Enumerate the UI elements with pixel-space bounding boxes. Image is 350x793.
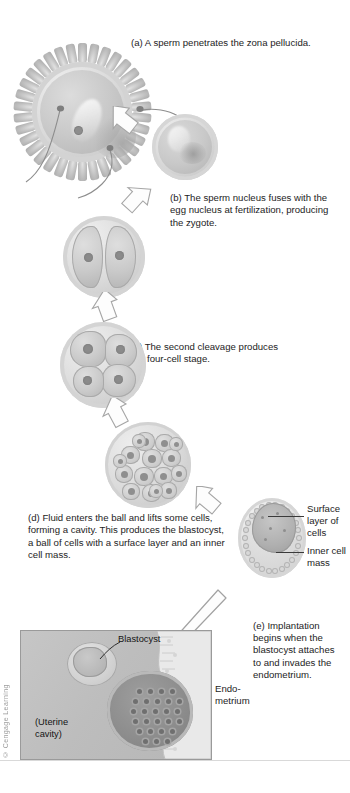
embryonic-cell xyxy=(144,719,149,724)
label-uterine-cavity-line2: cavity) xyxy=(35,729,68,741)
label-uterine-cavity-line1: (Uterine xyxy=(35,717,68,729)
morula xyxy=(105,422,191,508)
inner-cell-mass-leader-line xyxy=(276,552,304,553)
embryonic-cell xyxy=(148,729,153,734)
four-cell-zona-pellucida xyxy=(60,322,146,408)
copyright-credit: © Cengage Learning xyxy=(2,648,14,758)
implanting-blastocyst xyxy=(107,671,193,751)
embryonic-cell xyxy=(137,729,142,734)
trophoblast-cell xyxy=(243,543,249,549)
inner-cell-mass-body xyxy=(252,503,296,553)
morula-nucleus xyxy=(168,455,175,462)
embryonic-cell xyxy=(170,689,175,694)
blastocyst xyxy=(238,498,306,578)
morula-blastomere xyxy=(169,437,183,451)
blastomere xyxy=(73,366,104,397)
morula-blastomere xyxy=(171,465,187,482)
embryonic-cell xyxy=(142,709,147,714)
embryonic-cell xyxy=(155,719,160,724)
morula-nucleus xyxy=(176,471,182,477)
caption-b: (b) The sperm nucleus fuses with the egg… xyxy=(170,192,342,229)
label-endometrium: Endo- metrium xyxy=(215,683,265,707)
embryonic-cell xyxy=(159,689,164,694)
embryonic-cell xyxy=(133,699,138,704)
trophoblast-cell xyxy=(272,568,278,574)
morula-nucleus xyxy=(140,473,148,481)
blastomere xyxy=(70,331,106,367)
icm-nucleus xyxy=(269,527,272,530)
morula-nucleus xyxy=(118,459,123,464)
label-uterine-cavity: (Uterine cavity) xyxy=(35,717,68,740)
blastomere-nucleus xyxy=(84,253,93,262)
implanting-blastocyst-body xyxy=(107,671,193,751)
morula-nucleus xyxy=(161,440,168,447)
surface-layer-leader-line xyxy=(268,516,304,517)
morula-nucleus xyxy=(160,473,167,480)
blastocyst-leader-line xyxy=(96,640,122,662)
morula-blastomere xyxy=(132,434,146,448)
morula-blastomere xyxy=(113,454,127,468)
label-endometrium-line1: Endo- xyxy=(215,683,265,695)
embryonic-cell xyxy=(143,739,148,744)
morula-nucleus xyxy=(154,489,159,494)
label-blastocyst: Blastocyst xyxy=(118,634,160,644)
embryonic-cell xyxy=(166,699,171,704)
trophoblast-cell xyxy=(266,568,272,574)
embryonic-cell xyxy=(159,729,164,734)
morula-nucleus xyxy=(137,439,142,444)
icm-nucleus xyxy=(283,529,286,532)
label-surface-layer: Surface layer of cells xyxy=(307,503,350,538)
embryonic-cell xyxy=(166,719,171,724)
blastomere-nucleus xyxy=(115,251,124,260)
embryonic-cell xyxy=(177,699,182,704)
caption-e: (e) Implantation begins when the blastoc… xyxy=(253,620,345,681)
icm-nucleus xyxy=(264,538,267,541)
embryonic-cell xyxy=(153,709,158,714)
embryonic-cell xyxy=(175,709,180,714)
embryonic-cell xyxy=(133,719,138,724)
label-endometrium-line2: metrium xyxy=(215,695,265,707)
blastomere-nucleus xyxy=(83,344,93,354)
embryonic-cell xyxy=(164,709,169,714)
caption-d: (d) Fluid enters the ball and lifts some… xyxy=(28,512,228,562)
morula-nucleus xyxy=(174,442,179,447)
morula-nucleus xyxy=(128,488,135,495)
embryonic-cell xyxy=(170,729,175,734)
embryonic-cell xyxy=(165,739,170,744)
zygote xyxy=(152,114,218,180)
blastomere-nucleus xyxy=(116,345,125,354)
caption-c: (c) The second cleavage produces the fou… xyxy=(131,341,281,366)
footer-divider xyxy=(0,760,350,761)
blastomere-nucleus xyxy=(83,376,92,385)
morula-nucleus xyxy=(166,488,172,494)
arrow-a-to-b xyxy=(103,106,147,146)
icm-nucleus xyxy=(276,512,279,515)
embryonic-cell xyxy=(177,719,182,724)
icm-nucleus xyxy=(261,516,264,519)
blastomere-nucleus xyxy=(114,375,123,384)
trophoblast-cell xyxy=(242,535,248,541)
trophoblast-cell xyxy=(243,527,249,533)
blastomere xyxy=(105,334,137,368)
embryonic-cell xyxy=(155,699,160,704)
label-inner-cell-mass: Inner cell mass xyxy=(307,545,350,569)
embryonic-cell xyxy=(148,689,153,694)
morula-blastomere xyxy=(122,483,140,500)
morula-blastomere xyxy=(142,449,162,468)
trophoblast-cell xyxy=(249,557,255,563)
embryonic-cell xyxy=(154,739,159,744)
four-cell-stage xyxy=(60,322,146,408)
morula-nucleus xyxy=(148,455,156,463)
morula-blastomere xyxy=(149,484,163,498)
trophoblast-cell xyxy=(296,535,302,541)
blastomere xyxy=(72,226,103,288)
morula-nucleus xyxy=(127,452,134,459)
embryonic-cell xyxy=(137,689,142,694)
trophoblast-cell xyxy=(279,566,285,572)
two-cell-stage xyxy=(63,216,145,298)
embryonic-cell xyxy=(131,709,136,714)
trophoblast-cell xyxy=(245,520,251,526)
trophoblast-cell xyxy=(254,562,260,568)
zygote-mottling xyxy=(178,142,206,164)
morula-nucleus xyxy=(121,471,128,478)
